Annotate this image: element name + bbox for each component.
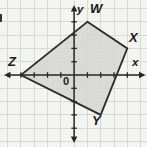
vertex-label-y: Y: [92, 114, 101, 127]
clipped-character-fragment: [0, 14, 2, 22]
x-axis-right-arrowhead: [139, 72, 146, 78]
y-axis-bottom-arrowhead: [71, 137, 77, 144]
vertex-label-z: Z: [8, 55, 16, 68]
origin-label: 0: [63, 76, 69, 87]
x-axis-label: x: [132, 57, 138, 69]
plane-svg: [0, 0, 147, 147]
vertex-label-x: X: [129, 31, 138, 44]
vertex-label-w: W: [90, 2, 102, 15]
coordinate-plane-figure: y W X x Z 0 Y: [0, 0, 147, 147]
y-axis-label: y: [77, 4, 83, 16]
